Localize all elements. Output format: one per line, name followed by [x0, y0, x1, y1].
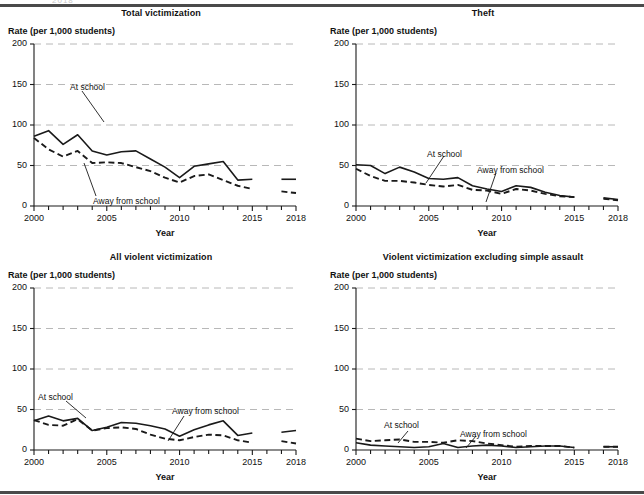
y-tick-label: 200: [322, 282, 349, 292]
plot-area-all-violent-victimization: [34, 288, 310, 464]
chart-panel-all-violent-victimization: All violent victimizationRate (per 1,000…: [0, 252, 322, 492]
series-annotation-at-school: At school: [38, 392, 73, 402]
x-tick-label: 2005: [413, 213, 445, 223]
y-tick-label: 150: [0, 323, 27, 333]
y-axis-label-violent-excluding-simple-assault: Rate (per 1,000 students): [330, 270, 437, 280]
y-tick-label: 150: [322, 79, 349, 89]
series-line-away-from-school: [281, 441, 296, 443]
series-annotation-at-school: At school: [427, 149, 462, 159]
x-tick-label: 2018: [602, 213, 634, 223]
x-tick-label: 2005: [91, 213, 123, 223]
y-tick-label: 100: [322, 119, 349, 129]
series-line-away-from-school: [34, 419, 252, 442]
y-tick-label: 0: [0, 444, 27, 454]
y-axis-label-all-violent-victimization: Rate (per 1,000 students): [8, 270, 115, 280]
series-annotation-away-from-school: Away from school: [477, 165, 544, 175]
x-tick-label: 2000: [18, 213, 50, 223]
chart-title-all-violent-victimization: All violent victimization: [0, 252, 322, 262]
x-tick-label: 2015: [236, 213, 268, 223]
plot-area-theft: [356, 44, 632, 220]
y-tick-label: 200: [322, 38, 349, 48]
annotation-leader-line: [82, 91, 104, 122]
x-tick-label: 2000: [340, 457, 372, 467]
x-axis-label-theft: Year: [356, 228, 618, 238]
x-tick-label: 2018: [280, 457, 312, 467]
x-axis-label-total-victimization: Year: [34, 228, 296, 238]
series-annotation-away-from-school: Away from school: [460, 429, 527, 439]
y-tick-label: 100: [0, 363, 27, 373]
x-axis-label-violent-excluding-simple-assault: Year: [356, 472, 618, 482]
y-axis-label-theft: Rate (per 1,000 students): [330, 26, 437, 36]
x-tick-label: 2010: [486, 457, 518, 467]
x-tick-label: 2000: [340, 213, 372, 223]
y-tick-label: 50: [0, 404, 27, 414]
y-tick-label: 0: [0, 200, 27, 210]
series-line-at-school: [281, 431, 296, 433]
annotation-leader-line: [168, 416, 184, 441]
x-tick-label: 2005: [413, 457, 445, 467]
x-tick-label: 2015: [558, 213, 590, 223]
y-tick-label: 200: [0, 38, 27, 48]
annotation-leader-line: [486, 173, 496, 202]
chart-panel-total-victimization: Total victimizationRate (per 1,000 stude…: [0, 8, 322, 248]
series-annotation-away-from-school: Away from school: [172, 406, 239, 416]
x-tick-label: 2000: [18, 457, 50, 467]
series-annotation-away-from-school: Away from school: [93, 196, 160, 206]
y-tick-label: 50: [322, 160, 349, 170]
top-divider-rule: [0, 4, 644, 7]
y-tick-label: 0: [322, 444, 349, 454]
y-tick-label: 150: [322, 323, 349, 333]
chart-title-total-victimization: Total victimization: [0, 8, 322, 18]
annotation-leader-line: [84, 163, 96, 196]
x-tick-label: 2018: [602, 457, 634, 467]
y-tick-label: 50: [0, 160, 27, 170]
series-line-away-from-school: [281, 191, 296, 193]
y-tick-label: 50: [322, 404, 349, 414]
series-annotation-at-school: At school: [70, 82, 105, 92]
chart-panel-violent-excluding-simple-assault: Violent victimization excluding simple a…: [322, 252, 644, 492]
series-annotation-at-school: At school: [384, 420, 419, 430]
x-axis-label-all-violent-victimization: Year: [34, 472, 296, 482]
chart-panel-theft: TheftRate (per 1,000 students)Year050100…: [322, 8, 644, 248]
series-line-away-from-school: [34, 138, 252, 189]
x-tick-label: 2010: [164, 213, 196, 223]
y-tick-label: 150: [0, 79, 27, 89]
cropped-header-text: 2018: [52, 0, 112, 3]
x-tick-label: 2010: [486, 213, 518, 223]
plot-area-total-victimization: [34, 44, 310, 220]
x-tick-label: 2015: [558, 457, 590, 467]
y-axis-label-total-victimization: Rate (per 1,000 students): [8, 26, 115, 36]
x-tick-label: 2015: [236, 457, 268, 467]
y-tick-label: 200: [0, 282, 27, 292]
chart-title-theft: Theft: [322, 8, 644, 18]
chart-title-violent-excluding-simple-assault: Violent victimization excluding simple a…: [322, 252, 644, 262]
series-line-at-school: [356, 443, 574, 448]
x-tick-label: 2005: [91, 457, 123, 467]
y-tick-label: 0: [322, 200, 349, 210]
x-tick-label: 2018: [280, 213, 312, 223]
x-tick-label: 2010: [164, 457, 196, 467]
series-line-at-school: [34, 416, 252, 436]
y-tick-label: 100: [322, 363, 349, 373]
y-tick-label: 100: [0, 119, 27, 129]
